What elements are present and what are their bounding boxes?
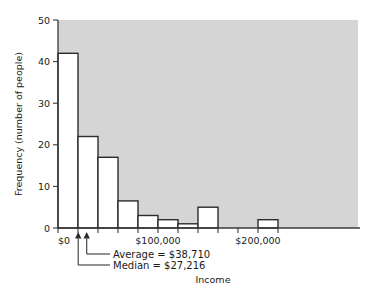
bar-bin-8 [198,207,218,228]
y-tick-label-40: 40 [38,56,50,67]
y-tick-label-0: 0 [44,223,50,234]
bar-bin-3 [98,157,118,228]
median-marker-arrow [75,232,110,265]
histogram-figure: 0 10 20 30 40 50 Frequency (number of pe… [0,0,373,296]
y-tick-label-30: 30 [38,98,50,109]
x-tick-label-100000: $100,000 [135,235,180,246]
y-tick-label-20: 20 [38,139,50,150]
y-axis-tick-labels: 0 10 20 30 40 50 [38,15,50,234]
bar-bin-1 [58,53,78,228]
bar-bin-4 [118,201,138,228]
x-tick-label-200000: $200,000 [235,235,280,246]
bar-bin-11 [258,220,278,228]
y-tick-label-50: 50 [38,15,50,26]
bar-bin-6 [158,220,178,228]
average-marker-arrow [84,232,111,254]
bar-bin-2 [78,137,98,229]
x-axis-ticks [58,228,278,233]
average-annotation-label: Average = $38,710 [113,249,210,260]
median-annotation-label: Median = $27,216 [113,260,205,271]
bar-bin-5 [138,216,158,229]
x-axis-title: Income [196,274,231,285]
y-axis-title: Frequency (number of people) [13,52,24,196]
x-tick-label-0: $0 [58,235,70,246]
y-tick-label-10: 10 [38,181,50,192]
income-histogram-chart: 0 10 20 30 40 50 Frequency (number of pe… [0,0,373,296]
y-axis-ticks [53,20,58,228]
